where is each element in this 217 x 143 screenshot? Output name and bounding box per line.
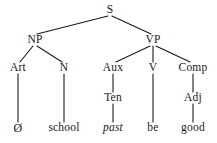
tree-edge-vp-to-aux (116, 46, 150, 62)
node-art: Art (10, 62, 26, 74)
node-adj: Adj (184, 92, 202, 104)
node-aux: Aux (103, 62, 123, 74)
leaf-art-word: Ø (14, 122, 23, 134)
leaf-v-word: be (147, 122, 158, 134)
leaf-n-word: school (48, 122, 79, 134)
node-np: NP (27, 34, 42, 46)
tree-edge-np-to-art (20, 46, 33, 62)
node-vp: VP (145, 34, 160, 46)
tree-edge-s-to-np (37, 16, 108, 34)
node-ten: Ten (104, 92, 122, 104)
tree-edge-np-to-n (37, 46, 62, 62)
tree-edge-vp-to-comp (156, 46, 190, 62)
node-s: S (107, 4, 114, 16)
leaf-adj-word: good (181, 122, 205, 134)
leaf-ten-word: past (103, 122, 123, 134)
node-n: N (60, 62, 69, 74)
tree-edge-s-to-vp (112, 16, 151, 34)
node-v: V (149, 62, 158, 74)
node-comp: Comp (179, 62, 208, 74)
syntax-tree-diagram: S NP VP Art N Aux V Comp Ten Adj Ø schoo… (0, 0, 217, 143)
